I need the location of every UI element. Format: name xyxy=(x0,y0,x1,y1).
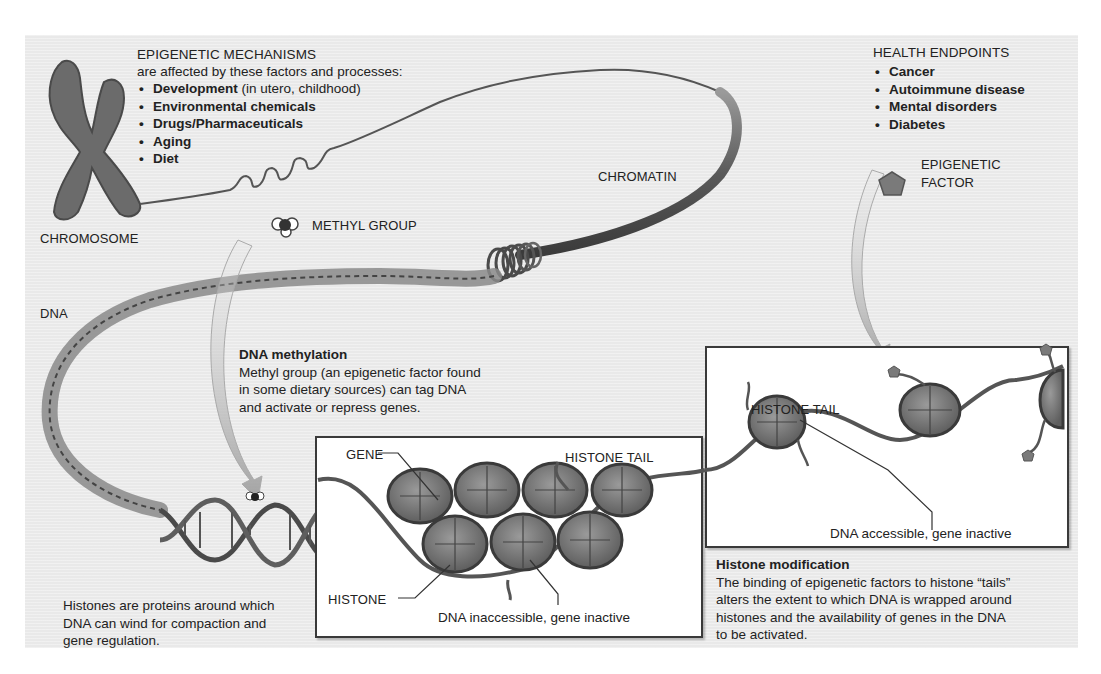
health-endpoints-block: HEALTH ENDPOINTS Cancer Autoimmune disea… xyxy=(873,44,1025,133)
chromosome-label: CHROMOSOME xyxy=(40,230,139,247)
mechanisms-title: EPIGENETIC MECHANISMS xyxy=(137,46,402,63)
health-endpoint-item: Diabetes xyxy=(873,116,1025,134)
gene-label: GENE xyxy=(346,446,383,463)
methyl-group-label: METHYL GROUP xyxy=(312,217,417,234)
histone-modification-heading: Histone modification xyxy=(716,556,1012,574)
methyl-group-icon xyxy=(272,218,298,237)
dna-methylation-heading: DNA methylation xyxy=(239,346,481,364)
histone-modification-description: Histone modification The binding of epig… xyxy=(716,556,1012,644)
chromosome-icon xyxy=(50,61,141,220)
histone-modification-panel xyxy=(705,346,1069,548)
dna-label: DNA xyxy=(40,305,68,322)
factor-arrow-icon xyxy=(852,170,890,368)
dna-accessible-label: DNA accessible, gene inactive xyxy=(830,525,1012,542)
mechanism-item: Diet xyxy=(137,150,402,168)
health-endpoints-list: Cancer Autoimmune disease Mental disorde… xyxy=(873,63,1025,133)
health-endpoints-title: HEALTH ENDPOINTS xyxy=(873,44,1025,61)
histone-tail-label-left: HISTONE TAIL xyxy=(565,449,654,466)
histone-tail-label-right: HISTONE TAIL xyxy=(751,401,840,418)
health-endpoint-item: Autoimmune disease xyxy=(873,81,1025,99)
health-endpoint-item: Cancer xyxy=(873,63,1025,81)
mechanisms-subtitle: are affected by these factors and proces… xyxy=(137,63,402,80)
histones-note: Histones are proteins around which DNA c… xyxy=(63,597,275,650)
mechanisms-block: EPIGENETIC MECHANISMS are affected by th… xyxy=(137,46,402,168)
dna-inaccessible-label: DNA inaccessible, gene inactive xyxy=(438,609,630,626)
epigenetic-factor-label: EPIGENETIC FACTOR xyxy=(921,156,1001,192)
health-endpoint-item: Mental disorders xyxy=(873,98,1025,116)
mechanisms-list: Development (in utero, childhood) Enviro… xyxy=(137,80,402,168)
mechanism-item: Development (in utero, childhood) xyxy=(137,80,402,98)
chromatin-label: CHROMATIN xyxy=(598,168,677,185)
mechanism-item: Environmental chemicals xyxy=(137,98,402,116)
mechanism-item: Drugs/Pharmaceuticals xyxy=(137,115,402,133)
mechanism-item: Aging xyxy=(137,133,402,151)
histone-label: HISTONE xyxy=(328,591,386,608)
methyl-tag-on-dna-icon xyxy=(246,492,264,501)
dna-methylation-description: DNA methylation Methyl group (an epigene… xyxy=(239,346,481,416)
